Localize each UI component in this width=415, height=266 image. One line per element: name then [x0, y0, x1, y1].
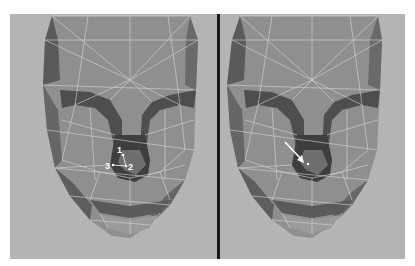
face-mesh-right	[220, 14, 405, 259]
vertex-label-1: 1	[117, 145, 122, 155]
vertex-label-3: 3	[105, 161, 110, 171]
right-viewport	[220, 14, 405, 259]
vertex-label-2: 2	[128, 162, 133, 172]
face-mesh-left: 1 2 3	[10, 14, 218, 259]
left-viewport: 1 2 3	[10, 14, 218, 259]
